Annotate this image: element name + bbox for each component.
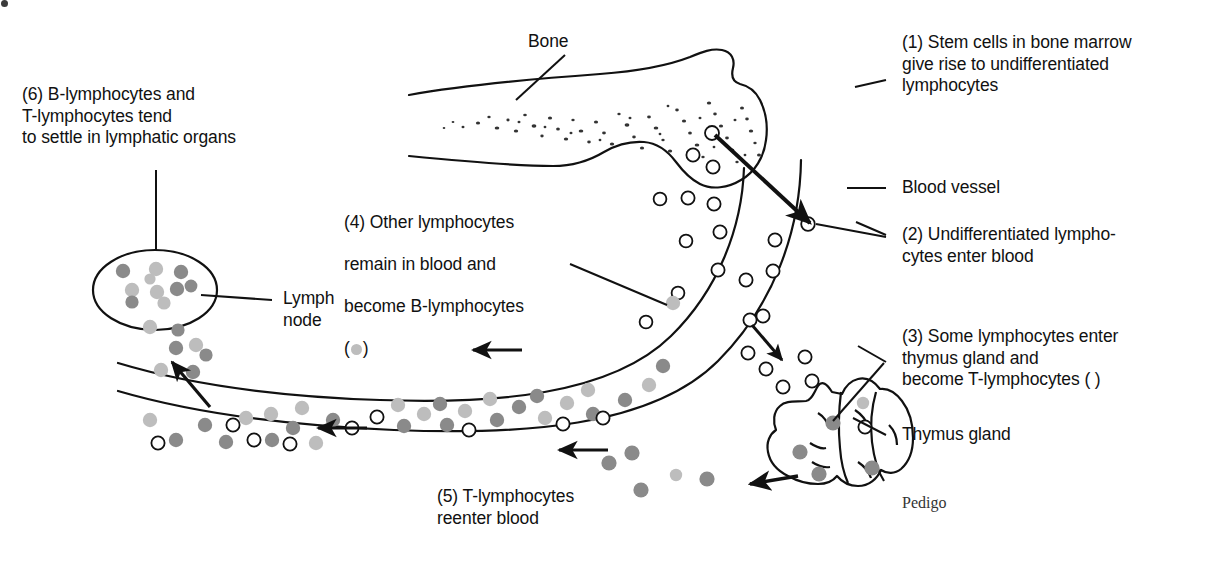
artist-signature: Pedigo <box>902 494 946 512</box>
leader-lymph-node <box>201 295 272 300</box>
label-step4-line3: become B-lymphocytes <box>344 296 524 316</box>
label-step2: (2) Undifferentiated lympho- cytes enter… <box>902 224 1202 267</box>
bone-marrow-exit-cells <box>681 126 720 211</box>
label-step6: (6) B-lymphocytes and T-lymphocytes tend… <box>22 84 292 149</box>
flow-arrow-down-right <box>752 325 782 360</box>
label-step4-line1: (4) Other lymphocytes <box>344 212 514 232</box>
label-step3: (3) Some lymphocytes enter thymus gland … <box>902 326 1214 391</box>
arrow-stem-to-vessel <box>715 135 810 223</box>
label-bone: Bone <box>528 31 568 53</box>
b-lymphocyte-swatch-icon <box>351 344 362 355</box>
figure-canvas: (1) Stem cells in bone marrow give rise … <box>0 0 1223 575</box>
arrow-from-thymus <box>750 476 798 484</box>
lymph-node-cells <box>116 262 198 310</box>
leader-step1 <box>855 80 886 87</box>
label-step4-paren-close: ) <box>363 338 369 358</box>
label-thymus-gland: Thymus gland <box>902 424 1011 446</box>
label-lymph-node: Lymph node <box>283 288 334 331</box>
label-step4-paren-open: ( <box>344 338 350 358</box>
label-step5: (5) T-lymphocytes reenter blood <box>437 486 677 529</box>
label-step1: (1) Stem cells in bone marrow give rise … <box>902 32 1207 97</box>
thymus-t-cells <box>792 397 879 482</box>
label-step4: (4) Other lymphocytes remain in blood an… <box>344 191 634 359</box>
thymus-gland <box>767 378 913 486</box>
label-step4-line2: remain in blood and <box>344 254 496 274</box>
leader-step3 <box>858 346 886 362</box>
label-blood-vessel: Blood vessel <box>902 177 1000 199</box>
